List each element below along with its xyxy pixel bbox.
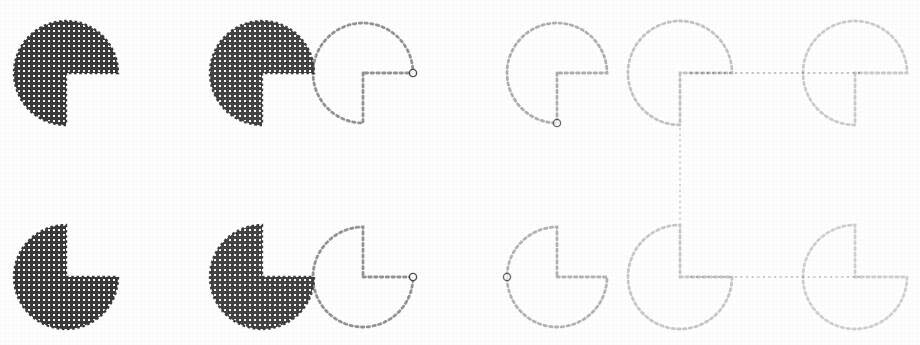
endpoint-marker-icon	[503, 273, 510, 280]
endpoint-marker-icon	[409, 273, 416, 280]
disc-solid-notch-up	[0, 211, 132, 343]
disc-dotted-notch-up	[299, 213, 427, 341]
figure-canvas	[0, 0, 920, 345]
disc-faint-notch-up	[493, 213, 621, 341]
connector-disc5-to-disc6	[688, 71, 862, 75]
disc-outline	[507, 227, 607, 327]
connector-disc11-to-disc12	[688, 275, 862, 279]
disc-dotted-notch-right	[299, 9, 427, 137]
paper-grain-overlay	[0, 0, 920, 345]
disc-faint-notch-right	[493, 9, 621, 137]
disc-outline	[313, 23, 413, 123]
connector-disc5-to-disc11	[678, 126, 682, 224]
disc-outline	[313, 227, 413, 327]
endpoint-marker-icon	[553, 119, 560, 126]
disc-outline	[507, 23, 607, 123]
disc-solid-notch-right	[0, 7, 132, 139]
endpoint-marker-icon	[409, 69, 416, 76]
